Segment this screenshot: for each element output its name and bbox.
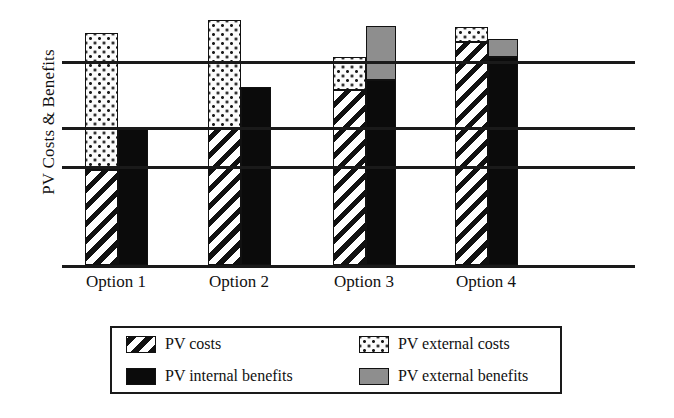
bar-segment-pv-costs [333,90,366,265]
x-axis-tick-label-4: Option 4 [436,272,536,292]
bar-segment-pv-internal-benefits [241,87,271,265]
bar-segment-pv-external-benefits [488,39,518,57]
gridline-1 [62,61,635,64]
bar-segment-pv-costs [455,42,488,265]
bar-segment-pv-costs [85,170,118,265]
x-axis-baseline [62,265,635,268]
bar-chart: PV Costs & Benefits Option 1Option 2Opti… [0,0,674,418]
legend-label: PV external benefits [398,368,528,384]
legend-swatch-pv-costs-icon [126,336,156,353]
gridline-2 [62,127,635,130]
legend-swatch-pv-internal-benefits-icon [126,368,156,385]
x-axis-tick-label-1: Option 1 [66,272,166,292]
chart-legend: PV costsPV external costsPV internal ben… [110,326,562,394]
x-axis-tick-label-3: Option 3 [314,272,414,292]
legend-entry-pv-internal-benefits: PV internal benefits [112,368,345,385]
legend-entry-pv-costs: PV costs [112,336,345,353]
bar-segment-pv-external-costs [455,27,488,42]
legend-entry-pv-external-benefits: PV external benefits [345,368,560,385]
x-axis-tick-label-2: Option 2 [189,272,289,292]
legend-swatch-pv-external-benefits-icon [359,368,389,385]
legend-swatch-pv-external-costs-icon [359,336,389,353]
legend-label: PV external costs [398,336,510,352]
plot-area: Option 1Option 2Option 3Option 4 [0,0,674,300]
bar-segment-pv-internal-benefits [118,128,148,265]
legend-label: PV costs [165,336,221,352]
bar-segment-pv-costs [208,128,241,265]
bar-segment-pv-external-costs [85,33,118,170]
bar-segment-pv-internal-benefits [366,80,396,265]
gridline-3 [62,166,635,169]
bar-segment-pv-internal-benefits [488,57,518,265]
bar-segment-pv-external-benefits [366,26,396,80]
bar-segment-pv-external-costs [208,20,241,128]
legend-entry-pv-external-costs: PV external costs [345,336,560,353]
legend-label: PV internal benefits [165,368,293,384]
